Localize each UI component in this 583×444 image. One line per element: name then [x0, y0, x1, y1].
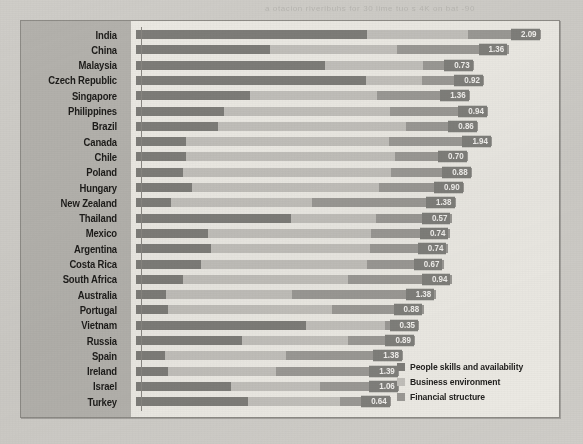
stacked-bar[interactable] [136, 275, 452, 284]
bar-segment-business [208, 229, 371, 238]
country-label: Philippines [21, 106, 125, 117]
legend-label-finance: Financial structure [410, 392, 485, 403]
bar-track: 0.88 [136, 303, 559, 318]
bar-segment-people [136, 244, 211, 253]
legend-item-finance[interactable]: Financial structure [397, 392, 549, 402]
bar-track: 0.88 [136, 166, 559, 181]
country-label: Hungary [21, 183, 125, 194]
stacked-bar[interactable] [136, 290, 436, 299]
bar-track: 2.09 [136, 28, 559, 43]
stacked-bar[interactable] [136, 336, 415, 345]
bar-value-label: 0.73 [444, 59, 473, 71]
bar-track: 0.90 [136, 181, 559, 196]
bar-segment-people [136, 183, 192, 192]
bar-segment-business [366, 76, 422, 85]
stacked-bar[interactable] [136, 351, 403, 360]
bar-value-label: 0.57 [422, 212, 451, 224]
bar-row: Czech Republic0.92 [21, 74, 559, 89]
country-label: Czech Republic [21, 76, 125, 87]
bar-value-label: 0.90 [434, 182, 463, 194]
bar-row: Brazil0.86 [21, 120, 559, 135]
bar-value-label: 0.70 [438, 151, 467, 163]
stacked-bar[interactable] [136, 260, 444, 269]
stacked-bar[interactable] [136, 30, 541, 39]
stacked-bar[interactable] [136, 168, 472, 177]
stacked-bar[interactable] [136, 61, 474, 70]
bar-segment-business [165, 351, 285, 360]
stacked-bar[interactable] [136, 305, 424, 314]
bar-segment-people [136, 321, 306, 330]
stacked-bar[interactable] [136, 76, 484, 85]
bar-track: 0.67 [136, 258, 559, 273]
bar-row: China1.36 [21, 43, 559, 58]
bar-row: Hungary0.90 [21, 181, 559, 196]
bar-segment-business [291, 214, 376, 223]
stacked-bar[interactable] [136, 122, 478, 131]
country-label: Portugal [21, 305, 125, 316]
bar-row: Poland0.88 [21, 166, 559, 181]
bar-segment-people [136, 168, 183, 177]
stacked-bar[interactable] [136, 137, 492, 146]
bar-segment-business [168, 305, 332, 314]
bar-row: Chile0.70 [21, 150, 559, 165]
bar-segment-people [136, 336, 242, 345]
bar-segment-business [218, 122, 406, 131]
bar-value-label: 0.74 [418, 243, 447, 255]
legend-label-people: People skills and availability [410, 362, 523, 373]
bar-row: Philippines0.94 [21, 105, 559, 120]
stacked-bar[interactable] [136, 45, 509, 54]
stacked-bar[interactable] [136, 152, 468, 161]
bar-segment-business [168, 367, 276, 376]
bar-value-label: 0.89 [385, 335, 414, 347]
bar-segment-people [136, 275, 183, 284]
legend-item-business[interactable]: Business environment [397, 377, 549, 387]
country-label: Mexico [21, 229, 125, 240]
bar-segment-people [136, 122, 218, 131]
bar-track: 0.74 [136, 227, 559, 242]
bar-segment-business [248, 397, 340, 406]
country-label: Vietnam [21, 321, 125, 332]
stacked-bar[interactable] [136, 91, 470, 100]
bar-segment-people [136, 76, 366, 85]
bar-segment-people [136, 382, 231, 391]
bar-row: Mexico0.74 [21, 227, 559, 242]
bar-row: Argentina0.74 [21, 242, 559, 257]
bar-segment-business [171, 198, 312, 207]
bar-segment-business [201, 260, 367, 269]
legend-item-people[interactable]: People skills and availability [397, 362, 549, 372]
bar-segment-business [242, 336, 348, 345]
bar-track: 0.70 [136, 150, 559, 165]
stacked-bar[interactable] [136, 198, 456, 207]
bar-value-label: 1.06 [369, 381, 398, 393]
bar-segment-people [136, 91, 250, 100]
bar-track: 0.35 [136, 319, 559, 334]
bar-row: Thailand0.57 [21, 212, 559, 227]
bar-track: 0.57 [136, 212, 559, 227]
bar-track: 1.94 [136, 135, 559, 150]
bar-segment-people [136, 260, 201, 269]
stacked-bar[interactable] [136, 214, 452, 223]
bar-row: Vietnam0.35 [21, 319, 559, 334]
stacked-bar[interactable] [136, 382, 399, 391]
bar-segment-people [136, 107, 224, 116]
bar-value-label: 2.09 [511, 29, 540, 41]
bar-track: 0.94 [136, 273, 559, 288]
bar-track: 1.38 [136, 288, 559, 303]
stacked-bar[interactable] [136, 321, 420, 330]
bar-value-label: 1.38 [426, 197, 455, 209]
stacked-bar[interactable] [136, 107, 488, 116]
bar-track: 1.36 [136, 89, 559, 104]
stacked-bar[interactable] [136, 367, 399, 376]
country-label: Israel [21, 382, 125, 393]
chart-legend: People skills and availabilityBusiness e… [397, 362, 549, 407]
bar-segment-people [136, 45, 270, 54]
bar-value-label: 1.39 [369, 365, 398, 377]
bar-row: South Africa0.94 [21, 273, 559, 288]
country-label: Turkey [21, 397, 125, 408]
stacked-bar[interactable] [136, 229, 450, 238]
stacked-bar[interactable] [136, 397, 391, 406]
bar-value-label: 0.64 [361, 396, 390, 408]
legend-label-business: Business environment [410, 377, 500, 388]
stacked-bar[interactable] [136, 244, 448, 253]
stacked-bar[interactable] [136, 183, 464, 192]
